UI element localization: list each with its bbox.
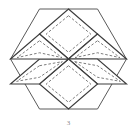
- figure-root: 3: [0, 0, 137, 132]
- rhombi-group: [11, 9, 127, 109]
- hexagon-rhombille-diagram: [0, 0, 137, 118]
- figure-caption: 3: [0, 118, 137, 128]
